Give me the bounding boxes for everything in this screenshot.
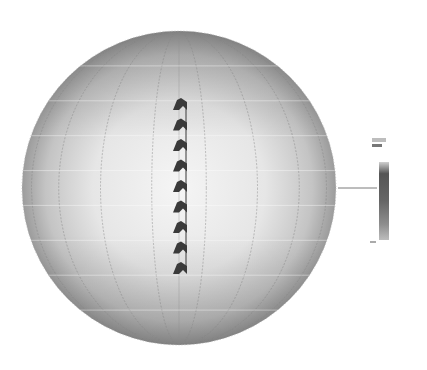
legend-colorbar xyxy=(379,162,389,240)
legend-bottom-label xyxy=(370,241,376,243)
legend-top-label xyxy=(372,138,386,142)
color-scale-legend xyxy=(370,138,389,243)
radiation-pattern-diagram xyxy=(0,0,427,370)
legend-top-tick xyxy=(372,144,382,147)
figure xyxy=(0,0,427,370)
